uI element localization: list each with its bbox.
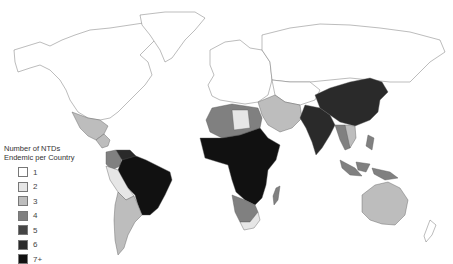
legend-title: Number of NTDs Endemic per Country bbox=[4, 144, 74, 162]
legend-title-line2: Endemic per Country bbox=[4, 153, 74, 162]
legend-swatch bbox=[18, 182, 28, 192]
legend-label: 2 bbox=[33, 182, 37, 191]
region-new-zealand bbox=[424, 220, 436, 242]
legend-item-5: 5 bbox=[18, 223, 74, 238]
map-legend: Number of NTDs Endemic per Country 1 2 3… bbox=[4, 144, 74, 264]
legend-swatch bbox=[18, 211, 28, 221]
legend-swatch bbox=[18, 240, 28, 250]
legend-item-4: 4 bbox=[18, 209, 74, 224]
legend-swatch bbox=[18, 225, 28, 235]
legend-label: 3 bbox=[33, 197, 37, 206]
legend-label: 7+ bbox=[33, 255, 42, 264]
legend-title-line1: Number of NTDs bbox=[4, 144, 74, 153]
legend-label: 6 bbox=[33, 240, 37, 249]
legend-label: 4 bbox=[33, 211, 37, 220]
legend-item-1: 1 bbox=[18, 165, 74, 180]
legend-item-2: 2 bbox=[18, 180, 74, 195]
legend-item-3: 3 bbox=[18, 194, 74, 209]
region-libya bbox=[232, 110, 250, 130]
region-madagascar bbox=[273, 186, 280, 205]
region-australia bbox=[362, 182, 408, 225]
region-indonesia bbox=[340, 160, 398, 180]
region-russia bbox=[262, 24, 445, 82]
region-sub-saharan-africa bbox=[200, 128, 280, 205]
legend-label: 1 bbox=[33, 168, 37, 177]
legend-swatch bbox=[18, 167, 28, 177]
region-philippines bbox=[366, 135, 374, 150]
legend-item-6: 6 bbox=[18, 238, 74, 253]
legend-swatch bbox=[18, 254, 28, 264]
legend-item-7plus: 7+ bbox=[18, 252, 74, 264]
legend-label: 5 bbox=[33, 226, 37, 235]
legend-swatch bbox=[18, 196, 28, 206]
